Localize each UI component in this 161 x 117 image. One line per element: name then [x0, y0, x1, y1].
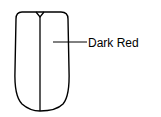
tongue-tip-notch: [36, 12, 44, 17]
tongue-outline: [15, 12, 69, 111]
tongue-diagram: [0, 0, 161, 117]
annotation-label-dark-red: Dark Red: [88, 36, 139, 50]
